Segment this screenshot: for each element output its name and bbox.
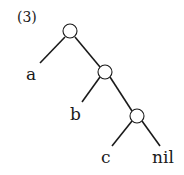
leaf-a: a: [26, 64, 36, 84]
tree-node-root: [63, 24, 77, 38]
edge-n3-nil: [142, 121, 160, 146]
tree-diagram: (3) a b c nil: [0, 0, 184, 175]
diagram-label: (3): [17, 9, 37, 25]
leaf-b: b: [70, 104, 81, 124]
leaf-c: c: [101, 147, 111, 167]
edge-n2-n3: [110, 77, 132, 111]
tree-node-3: [130, 109, 144, 123]
edge-root-n2: [75, 37, 100, 67]
edge-root-a: [40, 37, 65, 63]
leaf-nil: nil: [152, 147, 174, 167]
edge-n2-b: [82, 77, 100, 102]
edge-n3-c: [112, 121, 132, 146]
tree-node-2: [98, 65, 112, 79]
